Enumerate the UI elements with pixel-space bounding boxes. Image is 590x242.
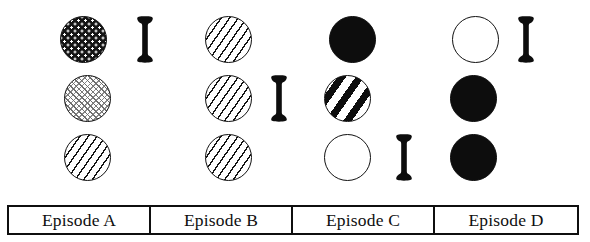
cell-row2-episode-b xyxy=(155,69,302,129)
cell-row3-episode-d xyxy=(444,128,590,188)
circle-hatch-thin xyxy=(205,134,252,181)
circle-solid xyxy=(450,75,497,122)
cell-row1-episode-a xyxy=(8,10,155,70)
legend-label-episode-a: Episode A xyxy=(42,210,116,231)
legend-label-episode-c: Episode C xyxy=(326,210,400,231)
legend-label-episode-b: Episode B xyxy=(184,210,258,231)
legend-cell-episode-a: Episode A xyxy=(9,207,151,233)
cell-row2-episode-a xyxy=(8,69,155,129)
cell-row3-episode-c xyxy=(300,128,447,188)
cell-row1-episode-b xyxy=(155,10,302,70)
cell-row1-episode-d xyxy=(444,10,590,70)
episode-legend-table: Episode A Episode B Episode C Episode D xyxy=(7,205,579,235)
circle-solid xyxy=(329,16,376,63)
circle-stipple xyxy=(64,75,111,122)
circle-solid xyxy=(450,134,497,181)
dumbbell-icon xyxy=(514,16,538,63)
cell-row2-episode-c xyxy=(300,69,447,129)
symbol-grid xyxy=(0,0,590,196)
dumbbell-icon xyxy=(392,134,416,181)
cell-row1-episode-c xyxy=(300,10,447,70)
legend-label-episode-d: Episode D xyxy=(468,210,543,231)
dumbbell-icon xyxy=(267,75,291,122)
legend-cell-episode-c: Episode C xyxy=(293,207,435,233)
circle-hatch-thin xyxy=(64,134,111,181)
circle-open xyxy=(452,16,499,63)
circle-open xyxy=(324,134,371,181)
cell-row3-episode-a xyxy=(8,128,155,188)
circle-dotgrid xyxy=(60,16,107,63)
circle-hatch-thin xyxy=(205,16,252,63)
legend-cell-episode-d: Episode D xyxy=(435,207,577,233)
circle-hatch-thin xyxy=(205,75,252,122)
circle-stripe-bold xyxy=(324,75,371,122)
legend-cell-episode-b: Episode B xyxy=(151,207,293,233)
cell-row3-episode-b xyxy=(155,128,302,188)
cell-row2-episode-d xyxy=(444,69,590,129)
episode-symbol-figure: Episode A Episode B Episode C Episode D xyxy=(0,0,590,242)
dumbbell-icon xyxy=(133,16,157,63)
